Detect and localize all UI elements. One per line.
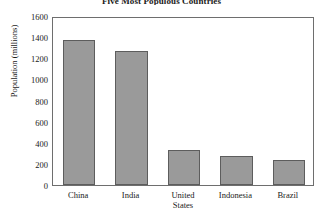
y-axis-tick-label: 1000: [8, 75, 48, 85]
bar: [220, 156, 252, 185]
x-axis-tick-label: India: [104, 190, 156, 200]
y-axis-tick-label: 800: [8, 97, 48, 107]
bar: [273, 160, 305, 185]
y-axis-tick-label: 0: [8, 181, 48, 191]
x-axis-tick-label-line: States: [157, 200, 209, 210]
x-axis-tick-label: UnitedStates: [157, 190, 209, 210]
chart-title: Five Most Populous Countries: [0, 0, 323, 5]
y-axis-tick-label: 1600: [8, 12, 48, 22]
plot-area: [52, 17, 314, 186]
x-axis-tick-label-line: China: [52, 190, 104, 200]
x-axis-tick-label-line: United: [157, 190, 209, 200]
y-axis-tick-label: 1400: [8, 33, 48, 43]
x-axis-tick-label-line: Brazil: [262, 190, 314, 200]
y-axis-tick-label: 200: [8, 160, 48, 170]
bar: [115, 51, 147, 185]
y-axis-tick-label: 1200: [8, 54, 48, 64]
x-axis-tick-label: China: [52, 190, 104, 200]
bar: [168, 150, 200, 185]
bar: [63, 40, 95, 185]
x-axis-tick-label: Indonesia: [209, 190, 261, 200]
x-axis-tick-label-line: Indonesia: [209, 190, 261, 200]
x-axis-tick-label: Brazil: [262, 190, 314, 200]
y-axis-tick-label: 400: [8, 139, 48, 149]
y-axis-tick-label: 600: [8, 118, 48, 128]
x-axis-tick-label-line: India: [104, 190, 156, 200]
bar-chart: Five Most Populous Countries Population …: [0, 0, 323, 217]
